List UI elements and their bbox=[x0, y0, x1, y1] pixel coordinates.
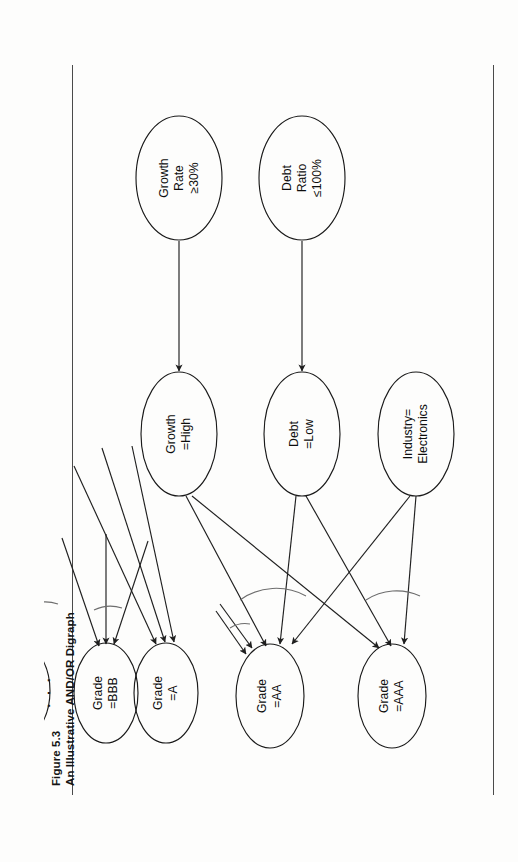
node-growth-rate-line-0: Growth bbox=[157, 158, 171, 197]
node-grade-a[interactable]: Grade =A bbox=[134, 643, 198, 743]
node-grade-bbb-line-0: Grade bbox=[91, 676, 105, 710]
page-rule-right bbox=[493, 65, 494, 795]
edge-growth-high-to-grade-aaa bbox=[192, 496, 379, 648]
and-arc-grade-aa-small bbox=[230, 624, 250, 628]
node-growth-rate[interactable]: Growth Rate ≥30% bbox=[136, 116, 222, 240]
node-grade-aa-line-0: Grade bbox=[255, 679, 269, 713]
node-growth-high[interactable]: Growth =High bbox=[141, 372, 217, 496]
figure-page-content: Figure 5.3 An Illustrative AND/OR Digrap… bbox=[44, 66, 474, 796]
node-grade-aa[interactable]: Grade =AA bbox=[236, 644, 304, 748]
edge-unlabeled-to-grade-a-2 bbox=[102, 448, 165, 642]
node-industry-line-0: Industry= bbox=[401, 409, 415, 459]
edge-industry-to-grade-aa bbox=[292, 496, 410, 644]
and-or-digraph: Grade =BBB Grade =A Grade =AA Grade =AAA bbox=[44, 66, 474, 796]
edge-layer bbox=[62, 241, 416, 654]
and-arc-grade-d bbox=[44, 602, 58, 606]
node-growth-rate-line-2: ≥30% bbox=[187, 162, 201, 193]
and-arc-layer bbox=[44, 588, 420, 628]
node-grade-aaa-line-1: =AAA bbox=[392, 679, 406, 711]
and-arc-grade-aaa bbox=[366, 591, 420, 600]
node-growth-rate-line-1: Rate bbox=[172, 165, 186, 191]
node-debt-low-line-0: Debt bbox=[287, 421, 301, 447]
node-debt-low[interactable]: Debt =Low bbox=[264, 372, 340, 496]
node-growth-high-line-1: =High bbox=[179, 418, 193, 450]
scanned-page: Figure 5.3 An Illustrative AND/OR Digrap… bbox=[0, 0, 518, 862]
node-debt-ratio-line-0: Debt bbox=[280, 165, 294, 191]
node-grade-aa-line-1: =AA bbox=[270, 683, 284, 707]
and-arc-grade-bbb bbox=[94, 606, 122, 610]
edge-unlabeled-to-grade-bbb-3 bbox=[114, 541, 148, 644]
node-debt-ratio[interactable]: Debt Ratio ≤100% bbox=[259, 116, 345, 240]
node-grade-aaa-line-0: Grade bbox=[377, 679, 391, 713]
and-arc-grade-aa bbox=[240, 588, 306, 600]
edge-unlabeled-to-grade-aa-a bbox=[216, 611, 246, 654]
node-debt-ratio-line-2: ≤100% bbox=[310, 159, 324, 197]
node-debt-low-line-1: =Low bbox=[302, 419, 316, 449]
node-grade-bbb[interactable]: Grade =BBB bbox=[74, 643, 138, 743]
node-grade-aaa[interactable]: Grade =AAA bbox=[358, 644, 426, 748]
edge-unlabeled-to-grade-bbb-1 bbox=[62, 538, 99, 646]
node-debt-ratio-line-1: Ratio bbox=[295, 164, 309, 193]
node-growth-high-line-0: Growth bbox=[164, 414, 178, 453]
edge-unlabeled-to-grade-a-3 bbox=[132, 446, 174, 642]
node-grade-bbb-line-1: =BBB bbox=[106, 677, 120, 709]
node-industry-electronics[interactable]: Industry= Electronics bbox=[378, 372, 454, 496]
vertical-ellipsis: · · · bbox=[44, 677, 58, 710]
node-industry-line-1: Electronics bbox=[416, 404, 430, 464]
edge-industry-to-grade-aaa bbox=[404, 496, 416, 644]
node-grade-a-line-1: =A bbox=[166, 685, 180, 701]
edge-growth-high-to-grade-aa bbox=[186, 496, 266, 646]
node-grade-a-line-0: Grade bbox=[151, 676, 165, 710]
